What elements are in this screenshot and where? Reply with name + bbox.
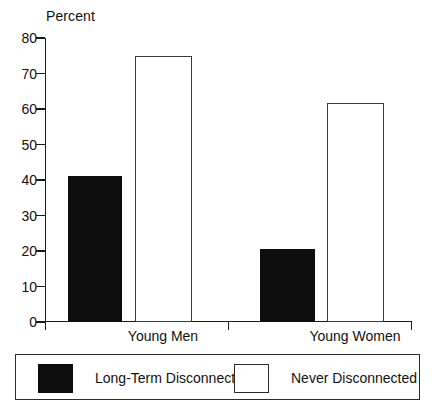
bar-young-men-long-term-disconnected: [68, 176, 122, 322]
y-axis-tick: [36, 37, 45, 38]
y-axis-tick: [36, 73, 45, 74]
y-axis-tick-label: 60: [7, 102, 37, 116]
category-label-young-women: Young Women: [280, 328, 430, 344]
legend-swatch-filled-icon: [38, 364, 73, 393]
y-axis-tick-label: 10: [7, 280, 37, 294]
legend-label-never-disconnected: Never Disconnected: [291, 370, 417, 386]
y-axis-unit-label: Percent: [46, 8, 95, 24]
bar-young-women-long-term-disconnected: [260, 249, 315, 322]
bar-young-women-never-disconnected: [327, 103, 384, 322]
chart-legend: Long-Term Disconnected Never Disconnecte…: [15, 354, 420, 400]
x-axis-tick: [45, 322, 46, 330]
y-axis-tick-label: 0: [7, 315, 37, 329]
bar-chart-figure: Percent 01020304050607080 Young MenYoung…: [0, 0, 435, 418]
y-axis-tick: [36, 108, 45, 109]
legend-entry-long-term-disconnected: Long-Term Disconnected: [38, 355, 251, 401]
y-axis-tick-labels: 01020304050607080: [7, 38, 37, 322]
y-axis-tick: [36, 286, 45, 287]
y-axis-tick: [36, 144, 45, 145]
y-axis-tick-label: 80: [7, 31, 37, 45]
y-axis-tick-label: 70: [7, 67, 37, 81]
y-axis-tick: [36, 321, 45, 322]
legend-swatch-hollow-icon: [234, 364, 269, 393]
y-axis-tick: [36, 179, 45, 180]
y-axis-tick-label: 20: [7, 244, 37, 258]
y-axis-tick-label: 40: [7, 173, 37, 187]
legend-entry-never-disconnected: Never Disconnected: [234, 355, 417, 401]
y-axis-tick-label: 50: [7, 138, 37, 152]
y-axis-tick: [36, 250, 45, 251]
legend-label-long-term-disconnected: Long-Term Disconnected: [95, 370, 251, 386]
y-axis-tick: [36, 215, 45, 216]
category-label-young-men: Young Men: [88, 328, 238, 344]
y-axis-line: [45, 38, 46, 322]
bar-young-men-never-disconnected: [135, 56, 192, 322]
plot-area: [45, 38, 412, 322]
y-axis-tick-label: 30: [7, 209, 37, 223]
